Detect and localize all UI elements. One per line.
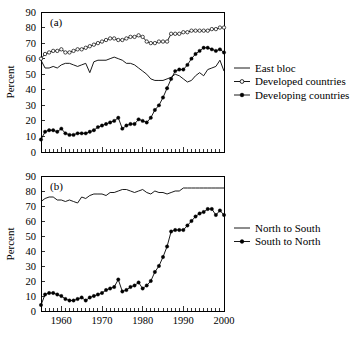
marker-open-circle [43, 52, 46, 55]
marker-filled-circle [72, 133, 75, 136]
series-line-north-to-south [41, 188, 224, 203]
marker-filled-circle [56, 293, 59, 296]
marker-filled-circle [182, 68, 185, 71]
marker-open-circle [104, 38, 107, 41]
marker-filled-circle [194, 52, 197, 55]
marker-filled-circle [121, 127, 124, 130]
marker-filled-circle [76, 297, 79, 300]
y-axis-title: Percent [4, 228, 16, 261]
marker-open-circle [113, 37, 116, 40]
marker-filled-circle [52, 291, 55, 294]
marker-filled-circle [39, 138, 42, 141]
marker-filled-circle [182, 228, 185, 231]
marker-filled-circle [178, 68, 181, 71]
marker-filled-circle [210, 207, 213, 210]
marker-open-circle [186, 31, 189, 34]
marker-open-circle [125, 37, 128, 40]
marker-open-circle [141, 35, 144, 38]
marker-filled-circle [64, 297, 67, 300]
marker-filled-circle [218, 48, 221, 51]
marker-filled-circle [92, 294, 95, 297]
marker-filled-circle [64, 132, 67, 135]
x-tick-label: 1970 [92, 315, 113, 326]
legend-label: South to North [255, 235, 321, 247]
marker-filled-circle [157, 104, 160, 107]
marker-filled-circle [194, 215, 197, 218]
marker-open-circle [153, 41, 156, 44]
panel-label: (a) [50, 16, 63, 29]
marker-filled-circle [133, 122, 136, 125]
marker-filled-circle [68, 299, 71, 302]
marker-filled-circle [202, 46, 205, 49]
marker-open-circle [88, 45, 91, 48]
marker-filled-circle [222, 51, 225, 54]
marker-open-circle [96, 41, 99, 44]
y-tick-label: 70 [26, 38, 37, 49]
y-tick-label: 40 [26, 84, 37, 95]
marker-filled-circle [210, 48, 213, 51]
marker-filled-circle [165, 245, 168, 248]
marker-filled-circle [169, 230, 172, 233]
legend-panel-b: North to SouthSouth to North [234, 222, 321, 248]
marker-open-circle [92, 43, 95, 46]
marker-open-circle [218, 26, 221, 29]
marker-open-circle [174, 32, 177, 35]
marker-filled-circle [178, 228, 181, 231]
marker-filled-circle [174, 69, 177, 72]
x-tick-label: 1980 [132, 315, 153, 326]
x-tick-label: 1960 [51, 315, 72, 326]
y-tick-label: 10 [26, 291, 37, 302]
y-tick-label: 20 [26, 276, 37, 287]
marker-open-circle [47, 51, 50, 54]
plot-frame [41, 176, 224, 311]
marker-filled-circle [108, 287, 111, 290]
marker-open-circle [137, 34, 140, 37]
marker-filled-circle [145, 284, 148, 287]
x-tick-label: 1990 [173, 315, 194, 326]
marker-filled-circle [149, 116, 152, 119]
marker-filled-circle [96, 125, 99, 128]
legend-label: Developing countries [255, 89, 349, 101]
panel-b: 010203040506070809019601970198019902000P… [4, 171, 235, 326]
marker-filled-circle [60, 127, 63, 130]
marker-filled-circle [117, 278, 120, 281]
marker-open-circle [210, 27, 213, 30]
legend-marker-filled-circle [240, 93, 244, 97]
marker-filled-circle [161, 96, 164, 99]
marker-filled-circle [113, 285, 116, 288]
marker-filled-circle [88, 130, 91, 133]
marker-open-circle [182, 31, 185, 34]
marker-filled-circle [141, 287, 144, 290]
marker-open-circle [121, 38, 124, 41]
marker-filled-circle [88, 296, 91, 299]
y-tick-label: 10 [26, 131, 37, 142]
marker-filled-circle [149, 279, 152, 282]
marker-filled-circle [60, 294, 63, 297]
marker-open-circle [145, 40, 148, 43]
marker-filled-circle [202, 210, 205, 213]
marker-filled-circle [161, 255, 164, 258]
y-tick-label: 0 [31, 147, 36, 158]
marker-filled-circle [100, 124, 103, 127]
marker-filled-circle [104, 288, 107, 291]
marker-filled-circle [56, 130, 59, 133]
marker-filled-circle [43, 293, 46, 296]
marker-open-circle [178, 32, 181, 35]
marker-filled-circle [153, 108, 156, 111]
marker-open-circle [206, 29, 209, 32]
marker-filled-circle [222, 213, 225, 216]
marker-filled-circle [129, 285, 132, 288]
marker-filled-circle [113, 119, 116, 122]
y-tick-label: 60 [26, 53, 37, 64]
marker-open-circle [198, 29, 201, 32]
marker-open-circle [100, 40, 103, 43]
legend-label: North to South [255, 222, 321, 234]
marker-open-circle [214, 27, 217, 30]
marker-filled-circle [39, 303, 42, 306]
marker-open-circle [64, 51, 67, 54]
marker-filled-circle [129, 122, 132, 125]
marker-open-circle [133, 35, 136, 38]
y-tick-label: 30 [26, 100, 37, 111]
y-axis-title: Percent [4, 66, 16, 99]
panel-a: 0102030405060708090Percent(a) [4, 7, 226, 158]
